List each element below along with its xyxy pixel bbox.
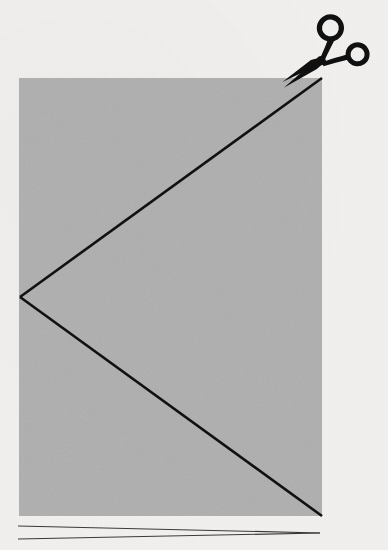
baseline-rule-top bbox=[18, 526, 320, 533]
baseline-rule-bottom bbox=[18, 533, 320, 539]
scissors-ring-large bbox=[315, 13, 346, 44]
scissors-ring-small bbox=[344, 41, 370, 67]
folded-paper-diagram bbox=[0, 0, 388, 550]
folded-paper-sheet bbox=[19, 78, 322, 516]
figure-canvas: Folded paper with cut line and scissors bbox=[0, 0, 388, 550]
